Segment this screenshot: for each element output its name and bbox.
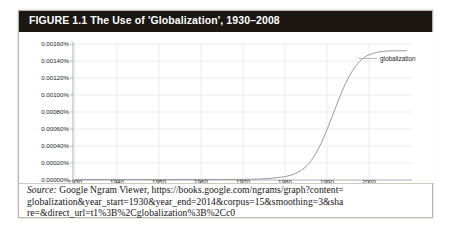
y-tick-label: 0.00040% [41,142,69,149]
source-line-2: globalization&year_start=1930&year_end=2… [27,196,426,208]
series-label-group: globalization [359,55,416,63]
horizontal-gridlines [73,44,412,163]
y-tick-label: 0.00120% [41,74,69,81]
y-tick-label: 0.00020% [41,159,69,166]
data-series-globalization [75,51,407,180]
source-line-3: re=&direct_url=t1%3B%2Cglobalization%3B%… [27,207,426,219]
y-axis [70,42,73,180]
y-tick-label: 0.00160% [41,40,69,47]
y-axis-tick-labels: 0.00160% 0.00140% 0.00120% 0.00100% 0.00… [41,40,69,183]
source-label: Source: [27,184,57,195]
source-caption: Source: Google Ngram Viewer, https://boo… [19,184,434,218]
source-line-1: Source: Google Ngram Viewer, https://boo… [27,184,426,196]
figure-title: FIGURE 1.1 The Use of 'Globalization', 1… [29,14,280,26]
y-tick-label: 0.00140% [41,57,69,64]
y-tick-label: 0.00080% [41,108,69,115]
chart-plot-area: 0.00160% 0.00140% 0.00120% 0.00100% 0.00… [19,32,434,184]
ngram-line-chart: 0.00160% 0.00140% 0.00120% 0.00100% 0.00… [19,32,434,184]
figure-title-bar: FIGURE 1.1 The Use of 'Globalization', 1… [19,11,432,32]
series-label-globalization: globalization [380,55,416,63]
source-line-1-rest: Google Ngram Viewer, https://books.googl… [57,184,344,195]
figure-card: FIGURE 1.1 The Use of 'Globalization', 1… [18,10,433,218]
y-tick-label: 0.00100% [41,91,69,98]
y-tick-label: 0.00060% [41,125,69,132]
